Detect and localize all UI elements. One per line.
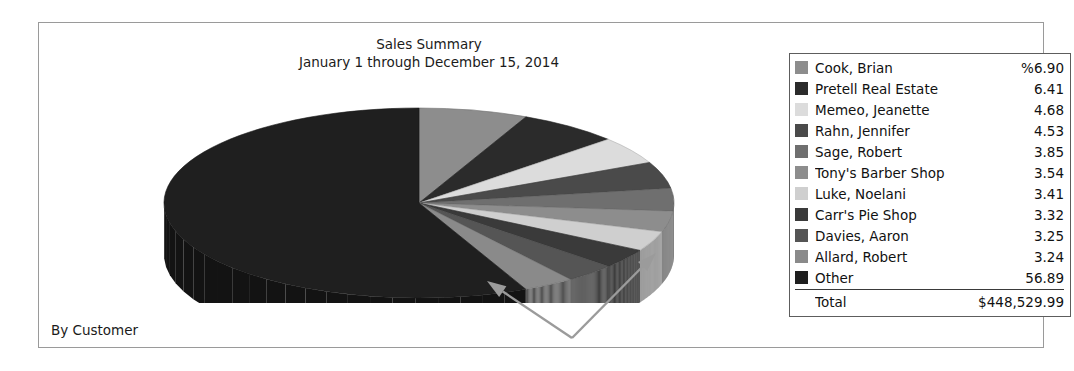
legend-color-swatch <box>795 250 808 263</box>
pie-slice-wall <box>584 275 585 303</box>
pie-slice-wall <box>605 267 606 303</box>
legend-item-label: Sage, Robert <box>815 144 1034 160</box>
pie-slice-wall <box>626 258 627 303</box>
legend-item-label: Rahn, Jennifer <box>815 123 1034 139</box>
legend-color-swatch <box>795 229 808 242</box>
pie-slice-wall <box>649 243 650 295</box>
pie-slice-wall <box>533 288 534 303</box>
pie-chart-svg <box>119 83 679 303</box>
pie-slice-wall <box>603 269 604 303</box>
pie-slice-wall <box>531 288 532 303</box>
pie-slice-wall <box>593 272 594 303</box>
legend-color-swatch <box>795 61 808 74</box>
pie-slice-wall <box>563 281 564 303</box>
pie-slice-wall <box>599 270 600 303</box>
pie-slice-wall <box>600 270 601 303</box>
pie-slice-wall <box>537 287 538 303</box>
pie-slice-wall <box>532 288 533 303</box>
pie-slice-wall <box>646 245 647 297</box>
pie-slice-wall <box>393 297 416 303</box>
pie-slice-wall <box>595 271 596 303</box>
legend-item: Sage, Robert3.85 <box>795 141 1064 162</box>
legend-item: Allard, Robert3.24 <box>795 246 1064 267</box>
pie-slice-wall <box>193 247 204 303</box>
legend-item-value: 3.85 <box>1034 144 1064 160</box>
pie-slice-wall <box>651 242 652 294</box>
pie-slice-wall <box>184 240 194 300</box>
page-title: Sales Summary <box>129 35 729 53</box>
pie-slice-wall <box>579 277 580 303</box>
legend-item-label: Allard, Robert <box>815 249 1034 265</box>
pie-slice-wall <box>618 262 619 303</box>
pie-slice-wall <box>634 254 635 303</box>
pie-slice-wall <box>597 271 598 303</box>
legend-color-swatch <box>795 271 808 284</box>
pie-slice-wall <box>623 260 624 303</box>
pie-slice-wall <box>637 252 638 303</box>
pie-slice-wall <box>629 257 630 303</box>
pie-slice-wall <box>609 266 610 303</box>
pie-slice-wall <box>547 285 548 303</box>
legend-item: Pretell Real Estate6.41 <box>795 78 1064 99</box>
pie-slice-wall <box>613 264 614 303</box>
pie-slice-wall <box>643 248 644 300</box>
pie-slice-wall <box>602 269 603 303</box>
pie-slice-wall <box>612 265 613 303</box>
pie-slice-wall <box>572 279 573 303</box>
pie-slice-wall <box>656 238 657 290</box>
legend-item-label: Davies, Aaron <box>815 228 1034 244</box>
pie-slice-wall <box>166 215 170 275</box>
pie-slice-wall <box>535 287 536 303</box>
pie-slice-wall <box>568 280 569 303</box>
pie-slice-wall <box>619 261 620 303</box>
pie-slice-wall <box>557 283 558 303</box>
pie-slice-wall <box>596 271 597 303</box>
pie-slice-wall <box>589 274 590 303</box>
pie-slice-wall <box>645 246 646 298</box>
legend-item: Memeo, Jeanette4.68 <box>795 99 1064 120</box>
legend-item-value: 56.89 <box>1025 270 1064 286</box>
legend-color-swatch <box>795 145 808 158</box>
pie-slice-wall <box>569 279 570 303</box>
legend-item: Luke, Noelani3.41 <box>795 183 1064 204</box>
pie-slice-wall <box>636 253 637 303</box>
pie-slice-wall <box>170 223 176 283</box>
page-subtitle: January 1 through December 15, 2014 <box>129 53 729 71</box>
pie-slice-wall <box>626 258 627 303</box>
legend-item-value: 4.53 <box>1034 123 1064 139</box>
legend-item-value: 3.54 <box>1034 165 1064 181</box>
pie-slice-wall <box>218 261 233 303</box>
pie-slice-wall <box>622 260 623 303</box>
pie-slice-wall <box>598 270 599 303</box>
pie-slice-wall <box>548 285 549 303</box>
pie-slice-wall <box>558 282 559 303</box>
pie-slice-wall <box>650 243 651 295</box>
pie-slice-wall <box>652 241 653 293</box>
pie-slice-wall <box>543 286 544 303</box>
pie-slice-wall <box>554 283 555 303</box>
legend-item-value: 3.41 <box>1034 186 1064 202</box>
pie-slice-wall <box>648 244 649 296</box>
pie-slice-wall <box>616 263 617 303</box>
legend-item: Cook, Brian%6.90 <box>795 57 1064 78</box>
pie-slice-wall <box>588 274 589 303</box>
pie-slice-wall <box>622 260 623 303</box>
legend-item: Tony's Barber Shop3.54 <box>795 162 1064 183</box>
pie-slice-wall <box>639 251 640 303</box>
pie-slice-wall <box>653 240 654 292</box>
legend-color-swatch <box>795 103 808 116</box>
pie-slice-wall <box>646 246 647 298</box>
pie-slice-wall <box>629 256 630 303</box>
legend-item-value: 3.24 <box>1034 249 1064 265</box>
pie-slice-wall <box>555 283 556 303</box>
legend-color-swatch <box>795 82 808 95</box>
legend-item-label: Tony's Barber Shop <box>815 165 1034 181</box>
pie-slice-wall <box>617 263 618 303</box>
pie-slice-wall <box>526 289 527 303</box>
legend-item-value: 4.68 <box>1034 102 1064 118</box>
pie-slice-wall <box>415 298 438 303</box>
pie-slice-wall <box>621 261 622 303</box>
legend-total-label: Total <box>815 294 978 310</box>
chart-title-block: Sales Summary January 1 through December… <box>129 35 729 71</box>
pie-slice-wall <box>575 278 576 303</box>
